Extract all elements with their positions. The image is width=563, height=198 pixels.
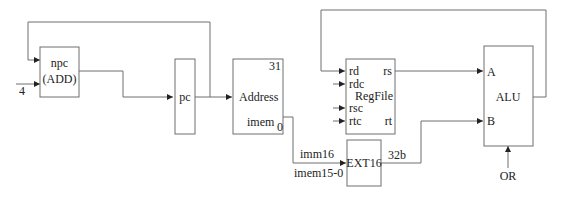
alu-input-a-label: A bbox=[487, 65, 496, 79]
cpu-datapath-diagram: npc (ADD) 4 pc 31 Address imem 0 rd rdc … bbox=[0, 0, 563, 198]
imem-block: 31 Address imem 0 bbox=[233, 59, 283, 134]
regfile-rs-port: rs bbox=[383, 64, 392, 78]
alu-label: ALU bbox=[496, 90, 521, 104]
regfile-block: rd rdc RegFile rsc rtc rs rt bbox=[346, 59, 395, 134]
imem-15-0-label: imem15-0 bbox=[294, 166, 343, 180]
imm16-label: imm16 bbox=[300, 147, 334, 161]
alu-input-b-label: B bbox=[487, 114, 495, 128]
npc-adder-block: npc (ADD) bbox=[40, 47, 79, 97]
regfile-rsc-port: rsc bbox=[349, 101, 363, 115]
ext16-32b-output-label: 32b bbox=[388, 148, 406, 162]
pc-label: pc bbox=[179, 90, 190, 104]
const-four-label: 4 bbox=[19, 84, 25, 98]
imem-bit-high-label: 31 bbox=[269, 59, 281, 73]
imem-address-port-label: Address bbox=[239, 90, 279, 104]
ext16-block: EXT16 bbox=[346, 140, 381, 186]
regfile-rt-port: rt bbox=[385, 114, 393, 128]
imem-name-label: imem bbox=[247, 115, 275, 129]
alu-block: A ALU B bbox=[484, 46, 533, 146]
regfile-rtc-port: rtc bbox=[349, 114, 362, 128]
imem-bit-low-label: 0 bbox=[277, 120, 283, 134]
alu-op-or-label: OR bbox=[500, 169, 517, 183]
npc-add-label: (ADD) bbox=[43, 72, 77, 86]
regfile-rd-port: rd bbox=[349, 64, 359, 78]
pc-register-block: pc bbox=[175, 59, 195, 134]
npc-label: npc bbox=[51, 56, 68, 70]
ext16-label: EXT16 bbox=[346, 156, 381, 170]
wire-npc-to-pc bbox=[79, 71, 173, 97]
